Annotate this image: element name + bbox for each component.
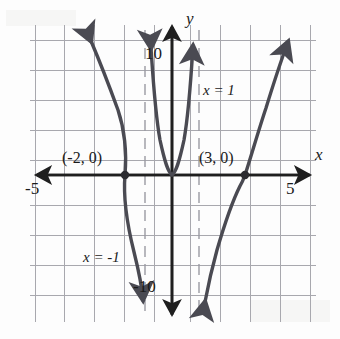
point-marker-root-right [241,171,249,179]
root-label-right: (3, 0) [199,150,234,166]
root-label-left: (-2, 0) [62,150,102,166]
x-axis-label: x [315,146,323,163]
x-tick-label-neg5: -5 [25,180,39,197]
asymptote-label-left: x = -1 [83,250,120,265]
y-axis-label: y [186,10,194,27]
y-tick-label-neg10: -10 [133,278,156,295]
point-marker-root-left [121,171,129,179]
asymptote-label-right: x = 1 [203,83,235,98]
x-tick-label-pos5: 5 [286,180,295,197]
graph-figure: y x -5 5 10 -10 (-2, 0) (3, 0) x = 1 x =… [0,0,340,339]
y-tick-label-pos10: 10 [145,45,162,62]
graph-canvas [0,0,340,339]
